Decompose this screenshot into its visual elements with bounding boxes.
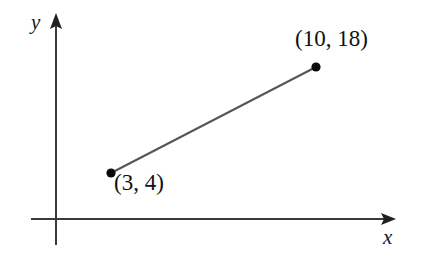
- y-axis-label: y: [31, 12, 40, 33]
- point-label-upper-right: (10, 18): [295, 27, 368, 50]
- coordinate-plane-figure: y x (10, 18) (3, 4): [0, 0, 427, 264]
- data-segment: [111, 67, 316, 173]
- point-label-lower-left: (3, 4): [114, 171, 164, 194]
- x-axis-label: x: [383, 227, 392, 248]
- data-point-b: [311, 62, 320, 71]
